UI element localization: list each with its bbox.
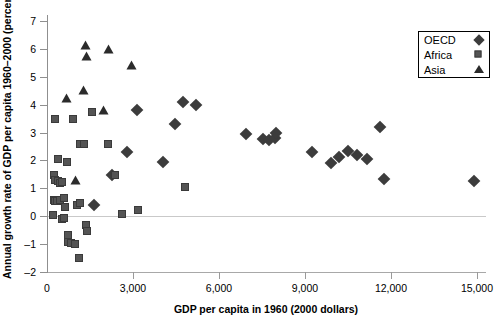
y-tick-label: 6 [0,44,36,54]
scatter-chart-figure: Annual growth rate of GDP per capita 196… [0,0,503,321]
data-point-oecd [240,128,253,141]
y-tick-mark [40,77,48,78]
data-point-africa [60,194,68,202]
y-tick-mark [40,272,48,273]
y-tick-mark [40,21,48,22]
y-tick-label: 5 [0,72,36,82]
data-point-asia [82,51,92,60]
y-tick-mark [40,133,48,134]
y-tick-mark [40,188,48,189]
data-point-asia [62,93,72,102]
y-tick-label: 2 [0,155,36,165]
data-point-oecd [306,145,319,158]
y-tick-label: 4 [0,100,36,110]
y-tick-mark [40,160,48,161]
x-tick-mark [477,272,478,279]
data-point-africa [61,203,69,211]
x-tick-label: 9,000 [270,283,340,294]
data-point-asia [99,105,109,114]
zero-reference-line [47,216,486,217]
legend-label-oecd: OECD [424,34,472,46]
data-point-oecd [190,98,203,111]
data-point-africa [118,210,126,218]
data-point-oecd [121,146,134,159]
data-point-oecd [377,173,390,186]
y-tick-label: 7 [0,16,36,26]
legend-item-asia: Asia [419,63,489,78]
data-point-africa [63,158,71,166]
data-point-oecd [157,155,170,168]
data-point-asia [70,176,80,185]
data-point-africa [111,171,119,179]
chart-legend: OECD Africa Asia [418,31,490,78]
data-point-africa [69,115,77,123]
x-tick-label: 3,000 [98,283,168,294]
legend-diamond-icon [472,33,486,47]
y-tick-label: 0 [0,211,36,221]
data-point-africa [88,108,96,116]
data-point-africa [49,211,57,219]
y-tick-label: 1 [0,183,36,193]
legend-label-africa: Africa [424,49,472,61]
data-point-oecd [373,121,386,134]
x-tick-label: 15,000 [442,283,503,294]
y-tick-mark [40,49,48,50]
data-point-africa [54,155,62,163]
data-point-africa [75,254,83,262]
data-point-asia [80,41,90,50]
data-point-africa [60,214,68,222]
legend-label-asia: Asia [424,64,472,76]
y-tick-label: 3 [0,128,36,138]
data-point-asia [103,45,113,54]
y-axis-line [47,15,48,273]
data-point-asia [79,85,89,94]
data-point-oecd [468,175,481,188]
x-axis-title: GDP per capita in 1960 (2000 dollars) [47,303,485,315]
data-point-africa [76,199,84,207]
data-point-africa [80,140,88,148]
data-point-africa [71,240,79,248]
x-axis-line [47,272,486,273]
legend-square-icon [472,48,486,62]
data-point-oecd [131,104,144,117]
data-point-oecd [177,96,190,109]
data-point-asia [126,61,136,70]
x-tick-label: 12,000 [356,283,426,294]
data-point-oecd [168,118,181,131]
y-tick-label: –2 [0,267,36,277]
x-tick-mark [305,272,306,279]
legend-item-oecd: OECD [419,32,489,47]
y-tick-mark [40,244,48,245]
y-tick-mark [40,216,48,217]
data-point-africa [83,227,91,235]
legend-triangle-icon [472,63,486,77]
data-point-oecd [88,198,101,211]
data-point-africa [134,206,142,214]
legend-item-africa: Africa [419,47,489,62]
x-tick-label: 0 [12,283,82,294]
y-tick-mark [40,105,48,106]
x-tick-mark [219,272,220,279]
x-tick-mark [133,272,134,279]
y-tick-label: –1 [0,239,36,249]
x-tick-label: 6,000 [184,283,254,294]
data-point-africa [181,183,189,191]
data-point-africa [104,140,112,148]
x-tick-mark [391,272,392,279]
data-point-africa [58,178,66,186]
data-point-africa [51,115,59,123]
